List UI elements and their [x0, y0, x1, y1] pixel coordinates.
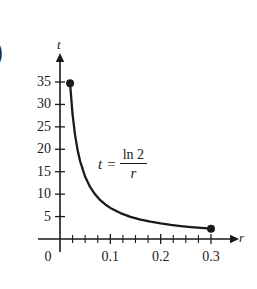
fraction-denominator: r — [130, 164, 136, 181]
y-tick-label-text: 35 — [24, 75, 51, 89]
fraction-numerator: ln 2 — [120, 148, 147, 163]
y-tick-label: 25 — [24, 120, 51, 134]
y-tick-label: 15 — [24, 165, 51, 179]
y-tick-label-text: 25 — [24, 120, 51, 134]
y-axis-arrowhead — [56, 53, 64, 62]
equation-annotation: t = ln 2 r — [98, 148, 147, 181]
equals-sign: = — [107, 156, 115, 173]
y-tick-label: 5 — [24, 210, 51, 224]
y-tick-label-text: 15 — [24, 165, 51, 179]
x-tick-label: 0.3 — [202, 250, 220, 264]
equation-lhs: t — [98, 156, 102, 173]
y-tick-label-text: 30 — [24, 97, 51, 111]
y-tick-label: 35 — [24, 75, 51, 89]
x-tick-label: 0.1 — [102, 250, 120, 264]
fraction: ln 2 r — [120, 148, 147, 181]
y-tick-label-text: 10 — [24, 187, 51, 201]
endpoint-dot — [207, 225, 215, 233]
x-tick-label: 0 — [45, 250, 52, 264]
endpoint-dot — [66, 79, 74, 87]
x-tick-label: 0.2 — [152, 250, 170, 264]
figure-panel: ) t r 5101520253035 00.10.20.3 t = ln 2 … — [0, 0, 257, 289]
x-axis-arrowhead — [230, 235, 239, 243]
y-tick-label-text: 20 — [24, 142, 51, 156]
y-tick-label: 20 — [24, 142, 51, 156]
y-tick-label-text: 5 — [24, 210, 51, 224]
y-tick-label: 10 — [24, 187, 51, 201]
y-tick-label: 30 — [24, 97, 51, 111]
